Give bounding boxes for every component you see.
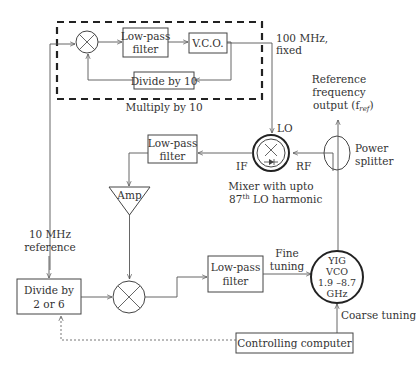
fine-tuning-line2: tuning — [270, 260, 305, 272]
divide-2-6-line1: Divide by — [24, 284, 74, 296]
ref-output-line1: Reference — [312, 73, 366, 85]
divide-2-6-line2: 2 or 6 — [33, 298, 65, 310]
lpf-bottom-line2: filter — [223, 275, 250, 287]
synthesizer-block-diagram: Multiply by 10 Low-pass filter V.C.O. Di… — [0, 0, 416, 367]
power-splitter-line2: splitter — [355, 155, 394, 167]
ref-output-line2: frequency — [312, 86, 365, 98]
freq-100-line1: 100 MHz, — [276, 32, 328, 44]
amp-label: Amp — [116, 189, 142, 201]
multiply-by-10-label: Multiply by 10 — [125, 101, 202, 113]
bottom-mixer-icon — [113, 281, 145, 313]
ref-output-line3: output (fref) — [313, 99, 374, 113]
power-splitter-line1: Power — [355, 142, 389, 154]
ref-10mhz-line2: reference — [24, 241, 75, 253]
coarse-tuning-label: Coarse tuning — [341, 309, 416, 321]
yig-line2: VCO — [325, 266, 348, 277]
top-mixer-icon — [76, 31, 98, 53]
mixer-caption-line2: 87th LO harmonic — [229, 193, 322, 205]
divide-by-10-label: Divide by 10 — [131, 75, 198, 87]
lpf-top-line1: Low-pass — [121, 30, 171, 42]
ref-10mhz-line1: 10 MHz — [29, 228, 72, 240]
harmonic-mixer-icon — [253, 135, 289, 171]
freq-100-line2: fixed — [276, 44, 302, 56]
lpf-mid-line2: filter — [160, 150, 187, 162]
if-label: IF — [236, 160, 247, 172]
fine-tuning-line1: Fine — [275, 247, 299, 259]
lpf-bottom-line1: Low-pass — [211, 261, 261, 273]
lpf-mid-line1: Low-pass — [148, 137, 198, 149]
yig-line4: GHz — [327, 288, 348, 299]
lo-label: LO — [277, 122, 293, 134]
controlling-computer-label: Controlling computer — [237, 337, 353, 349]
yig-line3: 1.9 –8.7 — [318, 277, 356, 288]
rf-label: RF — [296, 160, 311, 172]
vco-label: V.C.O. — [191, 37, 223, 49]
mixer-caption-line1: Mixer with upto — [228, 180, 313, 192]
yig-line1: YIG — [327, 255, 346, 266]
lpf-top-line2: filter — [133, 43, 160, 55]
